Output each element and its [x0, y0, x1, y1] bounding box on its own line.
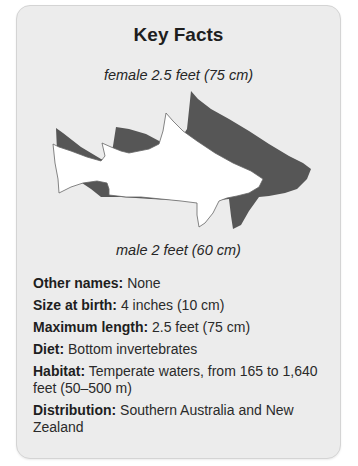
- fact-distribution: Distribution: Southern Australia and New…: [33, 402, 333, 436]
- male-size-caption: male 2 feet (60 cm): [17, 242, 340, 258]
- fact-diet: Diet: Bottom invertebrates: [33, 341, 333, 358]
- fact-value: None: [127, 275, 160, 291]
- facts-list: Other names: None Size at birth: 4 inche…: [33, 275, 333, 441]
- fact-label: Diet:: [33, 341, 64, 357]
- fact-label: Distribution:: [33, 402, 116, 418]
- fact-label: Other names:: [33, 275, 123, 291]
- fact-label: Habitat:: [33, 363, 85, 379]
- fact-value: Bottom invertebrates: [68, 341, 197, 357]
- fact-habitat: Habitat: Temperate waters, from 165 to 1…: [33, 363, 333, 397]
- male-shark-silhouette-icon: [53, 113, 263, 227]
- fact-other-names: Other names: None: [33, 275, 333, 292]
- female-size-caption: female 2.5 feet (75 cm): [17, 67, 340, 83]
- card-title: Key Facts: [17, 24, 340, 46]
- fact-value: 4 inches (10 cm): [121, 297, 224, 313]
- fact-label: Maximum length:: [33, 319, 148, 335]
- key-facts-card: Key Facts female 2.5 feet (75 cm) male 2…: [16, 5, 341, 459]
- fact-maximum-length: Maximum length: 2.5 feet (75 cm): [33, 319, 333, 336]
- fact-value: 2.5 feet (75 cm): [152, 319, 250, 335]
- fact-label: Size at birth:: [33, 297, 117, 313]
- fact-size-at-birth: Size at birth: 4 inches (10 cm): [33, 297, 333, 314]
- female-shark-silhouette-icon: [56, 91, 311, 229]
